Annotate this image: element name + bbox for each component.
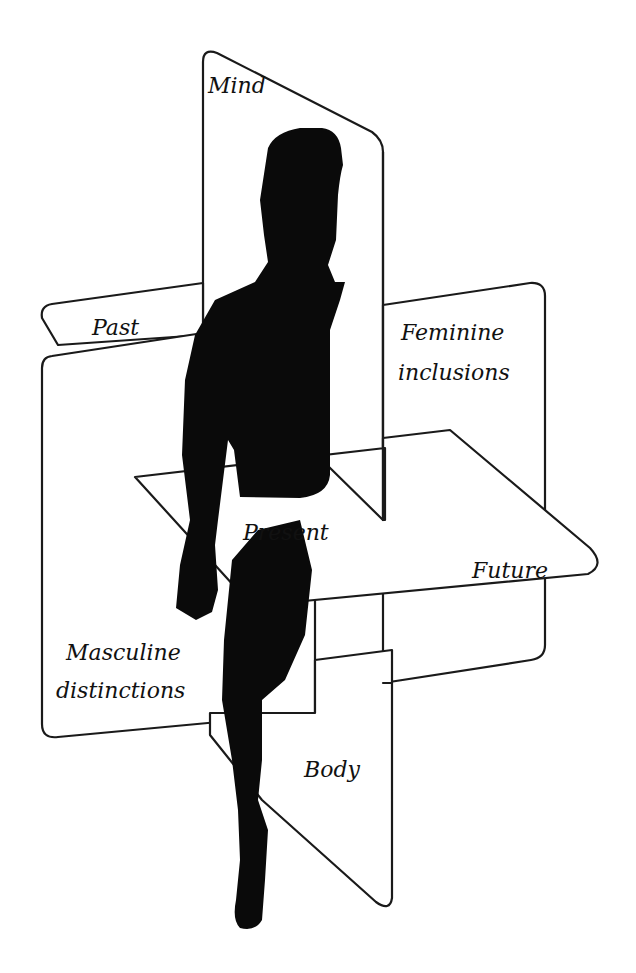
label-feminine: Feminine: [400, 320, 504, 345]
label-future: Future: [471, 558, 548, 583]
label-mind: Mind: [207, 73, 266, 98]
label-body: Body: [303, 757, 360, 782]
label-past: Past: [91, 315, 139, 340]
label-masculine: Masculine: [65, 640, 181, 665]
label-present: Present: [242, 520, 329, 545]
label-distinctions: distinctions: [56, 678, 185, 703]
diagram-canvas: Mind Past Feminine inclusions Present Fu…: [0, 0, 636, 973]
label-inclusions: inclusions: [398, 360, 510, 385]
